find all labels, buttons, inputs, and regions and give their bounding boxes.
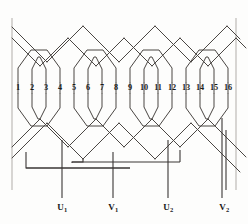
lower-end-windings (18, 94, 228, 126)
lower-chevron-a3 (68, 119, 96, 147)
lower-chevron-b7 (227, 159, 240, 172)
terminal-index-U1: 1 (64, 206, 67, 213)
slot-label-16: 16 (224, 84, 232, 92)
coil-head-bot-1-4 (18, 94, 60, 126)
slot-label-3: 3 (44, 84, 48, 92)
coil-head-bot-5-8 (74, 94, 116, 126)
lower-chevron-b1 (12, 123, 47, 158)
terminal-letter-U1: U (57, 202, 64, 212)
slot-label-1: 1 (16, 84, 20, 92)
slot-label-12: 12 (168, 84, 176, 92)
slot-label-15: 15 (210, 84, 218, 92)
coil-head-bot-6-7 (88, 94, 102, 119)
upper-chevron-b7 (180, 38, 208, 66)
terminal-label-U2: U2 (163, 203, 173, 212)
lower-chevron-a2 (40, 119, 68, 147)
lower-chevron-b2 (47, 123, 83, 159)
upper-chevron-b8 (208, 38, 236, 66)
terminal-letter-V2: V (219, 202, 226, 212)
slot-label-11: 11 (154, 84, 162, 92)
upper-chevron-b6 (152, 38, 180, 66)
lower-chevron-b3 (83, 123, 119, 159)
upper-phase-connectors (12, 26, 246, 66)
coil-head-top-13-16 (186, 50, 228, 82)
slot-label-5: 5 (72, 84, 76, 92)
slot-label-10: 10 (140, 84, 148, 92)
upper-chevron-b9 (236, 38, 246, 48)
terminal-letter-V1: V (108, 202, 115, 212)
coil-head-bot-2-3 (32, 94, 46, 119)
upper-chevron-b5 (124, 38, 152, 66)
terminal-leads (62, 118, 226, 198)
upper-chevron-a2 (47, 26, 83, 62)
terminal-index-V2: 2 (226, 206, 229, 213)
terminal-label-V1: V1 (108, 203, 118, 212)
slot-label-6: 6 (86, 84, 90, 92)
slot-label-9: 9 (128, 84, 132, 92)
slot-label-2: 2 (30, 84, 34, 92)
phase-bus-bars (26, 150, 180, 168)
slot-label-7: 7 (100, 84, 104, 92)
winding-diagram-svg (0, 0, 248, 224)
winding-diagram: 1 2 3 4 5 6 7 8 9 10 11 12 13 14 15 16 U… (0, 0, 248, 224)
lower-chevron-a1 (12, 119, 40, 147)
upper-chevron-a1 (12, 27, 47, 62)
terminal-index-U2: 2 (170, 206, 173, 213)
terminal-label-U1: U1 (57, 203, 67, 212)
coil-head-bot-14-15 (200, 94, 214, 119)
upper-chevron-a3 (83, 26, 119, 62)
lower-chevron-b4 (119, 123, 155, 159)
slot-label-13: 13 (182, 84, 190, 92)
upper-chevron-a4 (119, 26, 155, 62)
lower-chevron-a7 (180, 119, 208, 147)
terminal-index-V1: 1 (115, 206, 118, 213)
terminal-label-V2: V2 (219, 203, 229, 212)
coil-head-bot-10-11 (144, 94, 158, 119)
coil-head-bot-9-12 (130, 94, 172, 126)
coil-head-top-5-8 (74, 50, 116, 82)
coil-head-top-9-12 (130, 50, 172, 82)
slot-label-14: 14 (196, 84, 204, 92)
lower-chevron-a9 (236, 147, 246, 157)
upper-chevron-b3 (68, 38, 96, 66)
lower-chevron-a6 (152, 119, 180, 147)
upper-chevron-a7 (227, 26, 240, 39)
lower-chevron-a5 (124, 119, 152, 147)
terminal-letter-U2: U (163, 202, 170, 212)
upper-chevron-b1 (12, 38, 40, 66)
upper-chevron-b2 (40, 38, 68, 66)
slot-label-8: 8 (114, 84, 118, 92)
slot-label-4: 4 (58, 84, 62, 92)
upper-chevron-a6 (191, 26, 227, 62)
lower-phase-connectors (12, 119, 246, 172)
